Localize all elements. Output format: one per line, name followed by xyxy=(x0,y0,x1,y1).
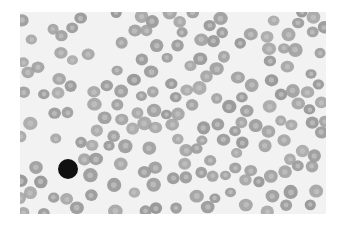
blood-smear-canvas xyxy=(20,12,326,214)
red-blood-cell xyxy=(315,126,326,138)
red-blood-cell xyxy=(229,126,241,136)
red-blood-cell xyxy=(315,97,326,109)
red-blood-cell xyxy=(23,117,37,130)
red-blood-cell xyxy=(161,110,172,120)
red-blood-cell xyxy=(200,70,213,82)
red-blood-cell xyxy=(265,74,278,86)
red-blood-cell xyxy=(75,137,86,148)
red-blood-cell xyxy=(20,175,28,187)
red-blood-cell xyxy=(284,153,296,165)
red-blood-cell xyxy=(87,98,102,111)
red-blood-cell xyxy=(288,43,302,57)
red-blood-cell xyxy=(146,178,160,192)
red-blood-cell xyxy=(275,89,287,101)
red-blood-cell xyxy=(319,116,326,127)
red-blood-cell xyxy=(170,202,182,213)
red-blood-cell xyxy=(240,105,253,117)
red-blood-cell xyxy=(286,84,300,98)
red-blood-cell xyxy=(83,168,98,182)
red-blood-cell xyxy=(38,89,50,99)
red-blood-cell xyxy=(116,37,128,49)
red-blood-cell xyxy=(147,104,161,117)
red-blood-cell xyxy=(225,188,236,198)
red-blood-cell xyxy=(278,43,290,53)
red-blood-cell xyxy=(114,158,128,171)
red-blood-cell xyxy=(231,71,245,83)
red-blood-cell xyxy=(34,176,47,189)
red-blood-cell xyxy=(52,87,65,99)
red-blood-cell xyxy=(213,12,227,25)
red-blood-cell xyxy=(87,86,100,98)
red-blood-cell xyxy=(54,47,67,59)
red-blood-cell xyxy=(282,28,296,41)
red-blood-cell xyxy=(318,21,326,33)
red-blood-cell xyxy=(20,14,29,26)
red-blood-cell xyxy=(82,48,95,60)
red-blood-cell xyxy=(20,86,30,98)
red-blood-cell xyxy=(280,199,292,211)
red-blood-cell xyxy=(192,81,206,95)
red-blood-cell xyxy=(144,65,158,77)
red-blood-cell xyxy=(52,73,66,85)
red-blood-cell xyxy=(197,121,210,134)
red-blood-cell xyxy=(235,38,246,49)
red-blood-cell xyxy=(296,12,307,18)
red-blood-cell xyxy=(118,139,132,153)
red-blood-cell xyxy=(211,118,224,130)
red-blood-cell xyxy=(62,107,74,119)
red-blood-cell xyxy=(184,61,196,72)
red-blood-cell xyxy=(91,124,103,136)
red-blood-cell xyxy=(146,15,159,28)
red-blood-cell xyxy=(126,122,139,134)
red-blood-cell xyxy=(277,134,290,146)
red-blood-cell xyxy=(86,140,99,151)
red-blood-cell xyxy=(55,30,67,41)
red-blood-cell xyxy=(89,153,103,165)
red-blood-cell xyxy=(20,131,26,142)
red-blood-cell xyxy=(114,85,128,98)
red-blood-cell xyxy=(211,93,222,104)
red-blood-cell xyxy=(307,27,319,38)
red-blood-cell xyxy=(249,119,263,132)
red-blood-cell xyxy=(108,205,123,214)
red-blood-cell xyxy=(103,141,114,151)
red-blood-cell xyxy=(101,80,114,91)
red-blood-cell xyxy=(194,34,208,46)
red-blood-cell xyxy=(65,80,77,92)
red-blood-cell xyxy=(177,27,188,37)
red-blood-cell xyxy=(172,134,183,144)
red-blood-cell xyxy=(304,104,316,114)
red-blood-cell xyxy=(165,78,177,89)
red-blood-cell xyxy=(190,190,204,203)
red-blood-cell xyxy=(245,79,259,92)
red-blood-cell xyxy=(148,162,162,174)
red-blood-cell xyxy=(171,107,184,120)
red-blood-cell xyxy=(180,171,193,183)
red-blood-cell xyxy=(306,116,319,128)
red-blood-cell xyxy=(196,135,207,145)
red-blood-cell xyxy=(98,111,112,124)
red-blood-cell xyxy=(195,167,207,179)
red-blood-cell xyxy=(26,34,37,44)
red-blood-cell xyxy=(264,170,278,183)
micrograph-image xyxy=(20,12,326,214)
red-blood-cell xyxy=(307,12,321,24)
red-blood-cell xyxy=(142,141,156,154)
red-blood-cell xyxy=(253,176,264,187)
red-blood-cell xyxy=(259,139,272,152)
red-blood-cell xyxy=(20,57,29,67)
red-blood-cell xyxy=(136,91,147,101)
red-blood-cell xyxy=(305,69,316,78)
red-blood-cell xyxy=(186,12,199,18)
red-blood-cell xyxy=(171,39,183,51)
red-blood-cell xyxy=(292,18,304,29)
red-blood-cell xyxy=(261,206,274,214)
red-blood-cell xyxy=(178,158,191,170)
red-blood-cell xyxy=(74,12,87,23)
red-blood-cell xyxy=(263,100,277,113)
red-blood-cell xyxy=(111,99,123,111)
red-blood-cell xyxy=(236,136,249,148)
red-blood-cell xyxy=(204,155,216,166)
red-blood-cell xyxy=(244,28,258,41)
red-blood-cell xyxy=(60,193,73,205)
